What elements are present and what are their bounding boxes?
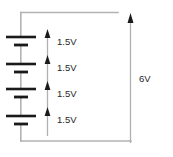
battery-circuit-diagram: 1.5V 1.5V 1.5V 1.5V 6V bbox=[0, 0, 173, 157]
battery-cell-2 bbox=[6, 64, 36, 72]
cell-2-voltage-label: 1.5V bbox=[57, 63, 77, 73]
cell-voltage-arrows bbox=[45, 29, 51, 136]
total-voltage-arrow-head bbox=[128, 13, 134, 23]
voltage-arrow-cell-4-head bbox=[45, 107, 51, 116]
cell-3-voltage-label: 1.5V bbox=[57, 89, 77, 99]
voltage-arrow-cell-2-head bbox=[45, 55, 51, 64]
voltage-arrow-cell-1 bbox=[45, 29, 51, 58]
cell-1-voltage-label: 1.5V bbox=[57, 37, 77, 47]
total-voltage-label: 6V bbox=[139, 74, 151, 84]
battery-cell-4 bbox=[6, 116, 36, 124]
voltage-arrow-cell-2 bbox=[45, 55, 51, 84]
voltage-arrow-cell-4 bbox=[45, 107, 51, 136]
voltage-arrow-cell-1-head bbox=[45, 29, 51, 38]
total-voltage-arrow bbox=[128, 13, 134, 143]
cell-4-voltage-label: 1.5V bbox=[57, 115, 77, 125]
voltage-arrow-cell-3-head bbox=[45, 81, 51, 90]
battery-cell-1 bbox=[6, 37, 36, 45]
voltage-arrow-cell-3 bbox=[45, 81, 51, 110]
battery-cell-3 bbox=[6, 89, 36, 97]
